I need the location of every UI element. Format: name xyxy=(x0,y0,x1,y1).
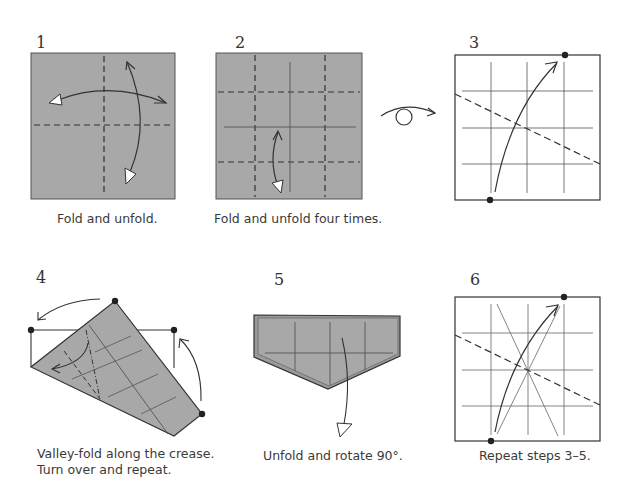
step-3-diagram xyxy=(455,52,600,203)
step-6-diagram xyxy=(455,294,600,444)
turn-over-icon xyxy=(381,107,435,125)
step-1-diagram xyxy=(31,53,175,199)
step-4-diagram xyxy=(28,298,205,436)
step-5-diagram xyxy=(254,315,400,437)
step-2-diagram xyxy=(216,53,362,199)
